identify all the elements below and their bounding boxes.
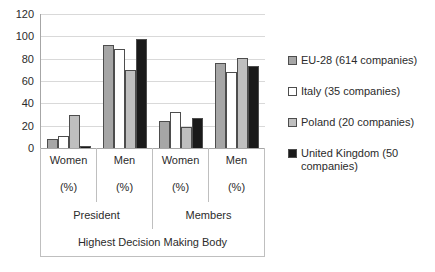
category-name-row: WomenMenWomenMen — [41, 148, 264, 173]
bar — [114, 49, 125, 148]
bar-group — [209, 14, 265, 148]
category-axis: WomenMenWomenMen (%)(%)(%)(%) PresidentM… — [40, 148, 265, 257]
bar — [215, 63, 226, 148]
legend-item[interactable]: United Kingdom (50 companies) — [288, 147, 435, 173]
bar — [181, 127, 192, 148]
legend-swatch-icon — [288, 87, 297, 96]
legend-label: Italy (35 companies) — [301, 85, 400, 98]
legend-swatch-icon — [288, 149, 297, 158]
bar-chart: 020406080100120 WomenMenWomenMen (%)(%)(… — [0, 0, 435, 272]
category-label: Men — [209, 148, 264, 173]
legend-item[interactable]: Italy (35 companies) — [288, 85, 435, 98]
bar — [159, 121, 170, 148]
plot-area — [40, 14, 265, 148]
legend-item[interactable]: EU-28 (614 companies) — [288, 54, 435, 67]
bar — [237, 58, 248, 148]
bar — [136, 39, 147, 148]
category-unit: (%) — [153, 173, 209, 202]
bar — [58, 136, 69, 148]
y-tick-label: 0 — [2, 143, 34, 154]
y-tick-label: 60 — [2, 76, 34, 87]
y-tick-label: 20 — [2, 120, 34, 131]
y-tick-label: 120 — [2, 9, 34, 20]
bar — [69, 115, 80, 149]
bar — [125, 70, 136, 148]
category-unit-row: (%)(%)(%)(%) — [41, 173, 264, 202]
legend-label: United Kingdom (50 companies) — [301, 147, 435, 173]
bar-group — [153, 14, 209, 148]
bar — [192, 118, 203, 148]
bar — [47, 139, 58, 148]
category-label: Women — [41, 148, 97, 173]
bar-group — [41, 14, 97, 148]
category-label: Men — [97, 148, 153, 173]
bar — [226, 72, 237, 148]
bar — [170, 112, 181, 148]
category-group-label: Members — [153, 202, 264, 229]
legend-label: EU-28 (614 companies) — [301, 54, 417, 67]
axis-title: Highest Decision Making Body — [41, 229, 264, 256]
y-axis: 020406080100120 — [2, 8, 34, 148]
legend-swatch-icon — [288, 118, 297, 127]
axis-title-row: Highest Decision Making Body — [41, 229, 264, 256]
category-group-label: President — [41, 202, 153, 229]
bar-group — [97, 14, 153, 148]
y-tick-label: 100 — [2, 31, 34, 42]
y-tick-label: 80 — [2, 53, 34, 64]
bars-layer — [41, 14, 265, 148]
y-tick-label: 40 — [2, 98, 34, 109]
category-label: Women — [153, 148, 209, 173]
category-unit: (%) — [97, 173, 153, 202]
category-group-row: PresidentMembers — [41, 202, 264, 229]
bar — [248, 66, 259, 148]
legend-label: Poland (20 companies) — [301, 116, 414, 129]
legend-swatch-icon — [288, 56, 297, 65]
category-unit: (%) — [209, 173, 264, 202]
category-unit: (%) — [41, 173, 97, 202]
legend: EU-28 (614 companies)Italy (35 companies… — [288, 54, 435, 191]
plot-wrapper: 020406080100120 WomenMenWomenMen (%)(%)(… — [0, 0, 290, 272]
bar — [103, 45, 114, 148]
legend-item[interactable]: Poland (20 companies) — [288, 116, 435, 129]
